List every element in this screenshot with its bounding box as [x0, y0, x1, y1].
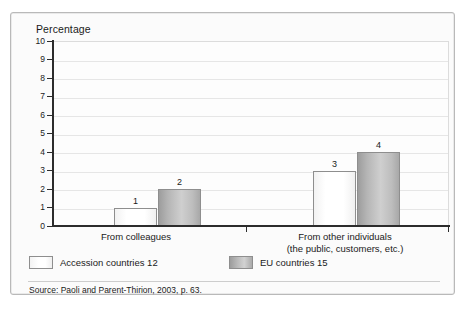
bar-accession-from-other-individuals — [313, 171, 356, 227]
y-label-0: 0 — [23, 221, 45, 230]
bar-accession-from-colleagues — [114, 208, 157, 227]
legend-label-accession: Accession countries 12 — [60, 257, 158, 268]
x-axis-line — [52, 225, 450, 227]
bar-group-from-other-individuals-eu: 4 — [357, 41, 400, 226]
y-label-2: 2 — [23, 184, 45, 193]
legend-swatch-eu-icon — [229, 256, 253, 269]
y-tick-6 — [47, 115, 53, 116]
y-label-8: 8 — [23, 73, 45, 82]
y-tick-8 — [47, 78, 53, 79]
chart-figure-frame: Percentage 1 2 3 4 — [10, 12, 455, 295]
bar-value-label: 1 — [114, 197, 157, 206]
y-tick-7 — [47, 96, 53, 97]
plot-area: 1 2 3 4 — [53, 41, 449, 226]
y-tick-10 — [47, 41, 53, 42]
source-divider — [28, 281, 440, 282]
y-tick-5 — [47, 133, 53, 134]
bar-value-label: 3 — [313, 160, 356, 169]
bar-group-from-colleagues-accession: 1 — [114, 41, 157, 226]
bar-eu-from-colleagues — [158, 189, 201, 226]
x-category-label-from-other-individuals: From other individuals (the public, cust… — [245, 231, 445, 254]
y-tick-1 — [47, 207, 53, 208]
legend-item-eu: EU countries 15 — [229, 256, 328, 269]
bar-group-from-colleagues-eu: 2 — [158, 41, 201, 226]
y-axis-tick-labels: 10 9 8 7 6 5 4 3 2 1 0 — [19, 13, 45, 294]
legend-item-accession: Accession countries 12 — [29, 256, 158, 269]
y-label-1: 1 — [23, 203, 45, 212]
y-tick-3 — [47, 170, 53, 171]
y-label-10: 10 — [23, 36, 45, 45]
x-tick-end — [448, 227, 449, 232]
bar-eu-from-other-individuals — [357, 152, 400, 226]
y-label-7: 7 — [23, 92, 45, 101]
y-label-4: 4 — [23, 147, 45, 156]
bar-group-from-other-individuals-accession: 3 — [313, 41, 356, 226]
legend-swatch-accession-icon — [29, 256, 53, 269]
y-label-9: 9 — [23, 55, 45, 64]
y-label-6: 6 — [23, 110, 45, 119]
y-label-5: 5 — [23, 129, 45, 138]
y-tick-4 — [47, 152, 53, 153]
bar-value-label: 2 — [158, 178, 201, 187]
source-note: Source: Paoli and Parent-Thirion, 2003, … — [29, 285, 202, 295]
y-tick-9 — [47, 59, 53, 60]
x-category-line-1: From other individuals — [245, 231, 445, 243]
x-category-line-2: (the public, customers, etc.) — [245, 243, 445, 255]
bar-value-label: 4 — [357, 141, 400, 150]
y-tick-2 — [47, 189, 53, 190]
x-category-label-from-colleagues: From colleagues — [69, 231, 203, 243]
legend-label-eu: EU countries 15 — [260, 257, 328, 268]
x-category-line-1: From colleagues — [69, 231, 203, 243]
y-label-3: 3 — [23, 166, 45, 175]
chart-legend: Accession countries 12 EU countries 15 — [29, 256, 439, 278]
